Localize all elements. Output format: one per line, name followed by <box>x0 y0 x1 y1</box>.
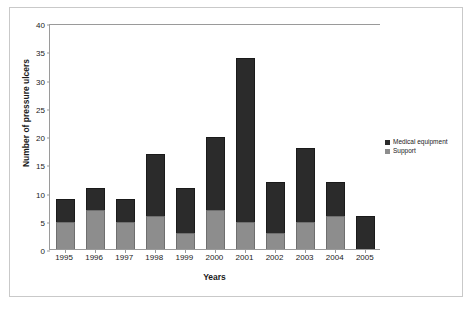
legend-swatch-icon <box>385 140 390 145</box>
bar-group[interactable] <box>110 25 140 250</box>
bar-stack[interactable] <box>206 137 225 250</box>
bar-stack[interactable] <box>326 182 345 250</box>
legend-item[interactable]: Support <box>385 147 463 155</box>
legend-swatch-icon <box>385 149 390 154</box>
bar-group[interactable] <box>170 25 200 250</box>
bar-group[interactable] <box>80 25 110 250</box>
x-tick-label: 2004 <box>320 253 350 269</box>
plot-area: 0510152025303540 <box>49 24 380 250</box>
bar-stack[interactable] <box>266 182 285 250</box>
bar-group[interactable] <box>290 25 320 250</box>
x-tick-label: 1998 <box>139 253 169 269</box>
bar-group[interactable] <box>230 25 260 250</box>
bar-group[interactable] <box>140 25 170 250</box>
bar-segment-support[interactable] <box>236 222 255 250</box>
x-tick-label: 1999 <box>169 253 199 269</box>
y-tick-mark <box>47 251 50 252</box>
bar-segment-medical-equipment[interactable] <box>296 148 315 221</box>
bar-segment-support[interactable] <box>56 222 75 250</box>
bar-segment-medical-equipment[interactable] <box>236 58 255 222</box>
x-tick-label: 2000 <box>199 253 229 269</box>
bar-group[interactable] <box>260 25 290 250</box>
bar-segment-support[interactable] <box>116 222 135 250</box>
bars-layer <box>50 25 380 250</box>
bar-stack[interactable] <box>146 154 165 250</box>
bar-stack[interactable] <box>56 199 75 250</box>
bar-segment-support[interactable] <box>266 233 285 250</box>
bar-stack[interactable] <box>86 188 105 250</box>
bar-segment-medical-equipment[interactable] <box>116 199 135 222</box>
bar-segment-support[interactable] <box>176 233 195 250</box>
bar-segment-medical-equipment[interactable] <box>176 188 195 233</box>
x-tick-label: 1996 <box>79 253 109 269</box>
chart-figure: Number of pressure ulcers 05101520253035… <box>0 0 476 310</box>
bar-segment-support[interactable] <box>326 216 345 250</box>
y-axis-title: Number of pressure ulcers <box>21 43 31 183</box>
bar-segment-support[interactable] <box>146 216 165 250</box>
bar-segment-support[interactable] <box>296 222 315 250</box>
bar-segment-medical-equipment[interactable] <box>86 188 105 211</box>
legend-label: Support <box>393 147 416 155</box>
bar-segment-medical-equipment[interactable] <box>326 182 345 216</box>
bar-stack[interactable] <box>116 199 135 250</box>
x-axis-line <box>50 249 380 250</box>
plot-inner: 0510152025303540 <box>50 25 380 250</box>
bar-stack[interactable] <box>176 188 195 250</box>
bar-stack[interactable] <box>236 58 255 250</box>
x-axis-title: Years <box>49 272 380 282</box>
x-tick-label: 2005 <box>350 253 380 269</box>
x-tick-label: 2003 <box>290 253 320 269</box>
x-tick-label: 1997 <box>109 253 139 269</box>
x-axis-tick-labels: 1995199619971998199920002001200220032004… <box>49 253 380 269</box>
chart-legend: Medical equipmentSupport <box>385 138 463 156</box>
bar-stack[interactable] <box>356 216 375 250</box>
bar-group[interactable] <box>200 25 230 250</box>
bar-segment-medical-equipment[interactable] <box>206 137 225 210</box>
legend-item[interactable]: Medical equipment <box>385 138 463 146</box>
bar-segment-medical-equipment[interactable] <box>356 216 375 250</box>
x-tick-label: 2001 <box>230 253 260 269</box>
legend-label: Medical equipment <box>393 138 448 146</box>
bar-segment-medical-equipment[interactable] <box>266 182 285 233</box>
bar-group[interactable] <box>350 25 380 250</box>
bar-segment-medical-equipment[interactable] <box>56 199 75 222</box>
bar-group[interactable] <box>320 25 350 250</box>
x-tick-label: 1995 <box>49 253 79 269</box>
bar-segment-support[interactable] <box>206 210 225 250</box>
bar-group[interactable] <box>50 25 80 250</box>
bar-segment-medical-equipment[interactable] <box>146 154 165 216</box>
bar-segment-support[interactable] <box>86 210 105 250</box>
bar-stack[interactable] <box>296 148 315 250</box>
x-tick-label: 2002 <box>260 253 290 269</box>
